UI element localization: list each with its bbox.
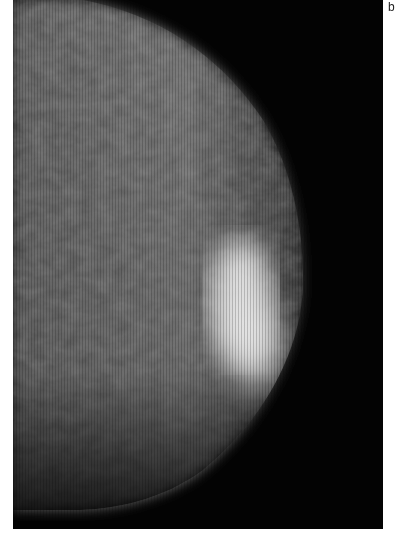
tissue-graphic: [13, 0, 383, 529]
radiograph-image: [13, 0, 383, 529]
panel-label: b: [388, 0, 395, 14]
